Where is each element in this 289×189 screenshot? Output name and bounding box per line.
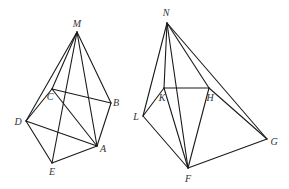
vertex-label-h: H [205, 92, 214, 103]
vertex-label-e: E [48, 166, 55, 177]
vertex-label-b: B [113, 97, 119, 108]
edge-ma [77, 32, 97, 146]
edge-mb [77, 32, 111, 103]
vertex-label-g: G [270, 136, 277, 147]
edge-nf [167, 23, 188, 168]
vertex-label-f: F [184, 173, 192, 184]
edge-me [52, 32, 77, 163]
edge-ba [97, 103, 111, 146]
edges-group [26, 23, 267, 168]
vertex-label-a: A [99, 143, 107, 154]
edge-mc [52, 32, 77, 89]
geometry-figure: M C B D A E N K H L G F [0, 0, 289, 189]
edge-hg [209, 88, 267, 139]
vertex-label-n: N [162, 7, 171, 18]
edge-de [26, 121, 52, 163]
vertex-label-k: K [158, 92, 167, 103]
edge-kf [164, 88, 188, 168]
edge-da [26, 121, 97, 146]
edge-ea [52, 146, 97, 163]
edge-md [26, 32, 77, 121]
vertex-label-l: L [132, 111, 139, 122]
vertex-label-d: D [13, 116, 22, 127]
edge-fg [188, 139, 267, 168]
edge-nh [167, 23, 209, 88]
edge-ng [167, 23, 267, 139]
vertex-label-c: C [47, 91, 54, 102]
vertex-label-m: M [72, 18, 82, 29]
